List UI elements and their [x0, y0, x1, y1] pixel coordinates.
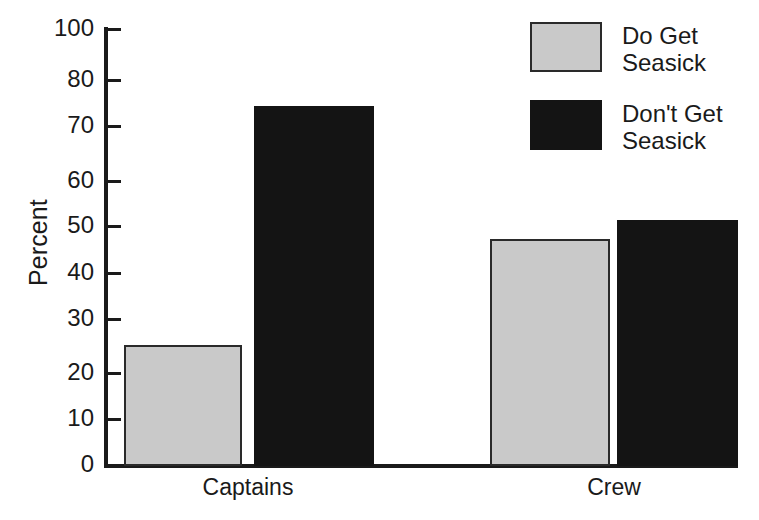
- y-tick-mark: [104, 318, 121, 321]
- y-tick-label: 50: [22, 213, 94, 237]
- legend-swatch-light: [530, 22, 602, 72]
- y-tick-label-text: 10: [30, 406, 94, 430]
- y-tick-label: 20: [22, 360, 94, 384]
- y-tick-mark: [104, 272, 121, 275]
- y-tick-label: 70: [22, 113, 94, 137]
- y-tick-label: 60: [22, 168, 94, 192]
- y-tick-mark: [104, 28, 121, 31]
- y-tick-label-text: 60: [30, 168, 94, 192]
- y-tick-mark: [104, 125, 121, 128]
- y-tick-label-text: 100: [30, 16, 94, 40]
- x-axis-label: Crew: [534, 474, 694, 500]
- y-tick-mark: [104, 372, 121, 375]
- bar-crew-do-get: [490, 239, 610, 466]
- bar-captains-do-get: [124, 345, 242, 466]
- y-tick-label: 30: [22, 306, 94, 330]
- y-tick-mark: [104, 225, 121, 228]
- y-tick-label-text: 30: [30, 306, 94, 330]
- y-tick-label-text: 40: [30, 260, 94, 284]
- y-tick-label-text: 20: [30, 360, 94, 384]
- y-tick-label: 100: [22, 16, 94, 40]
- y-axis-title: Percent: [24, 183, 53, 303]
- y-tick-mark: [104, 418, 121, 421]
- y-tick-label-text: 70: [30, 113, 94, 137]
- y-tick-label: 80: [22, 67, 94, 91]
- legend-item: Do Get Seasick: [530, 22, 706, 76]
- y-tick-label: 0: [22, 452, 94, 476]
- bar-crew-dont-get: [617, 220, 738, 466]
- y-tick-label-text: 50: [30, 213, 94, 237]
- legend-item: Don't Get Seasick: [530, 100, 723, 154]
- bar-chart: Percent 10080706050403020100 CaptainsCre…: [0, 0, 759, 520]
- legend-label: Don't Get Seasick: [622, 100, 723, 154]
- y-tick-label-text: 0: [30, 452, 94, 476]
- y-tick-mark: [104, 79, 121, 82]
- legend-swatch-dark: [530, 100, 602, 150]
- legend-label: Do Get Seasick: [622, 22, 706, 76]
- y-axis-line: [104, 27, 108, 468]
- y-tick-label: 40: [22, 260, 94, 284]
- x-axis-label: Captains: [168, 474, 328, 500]
- bar-captains-dont-get: [254, 106, 374, 466]
- y-tick-label-text: 80: [30, 67, 94, 91]
- y-tick-label: 10: [22, 406, 94, 430]
- y-tick-mark: [104, 464, 121, 467]
- y-tick-mark: [104, 180, 121, 183]
